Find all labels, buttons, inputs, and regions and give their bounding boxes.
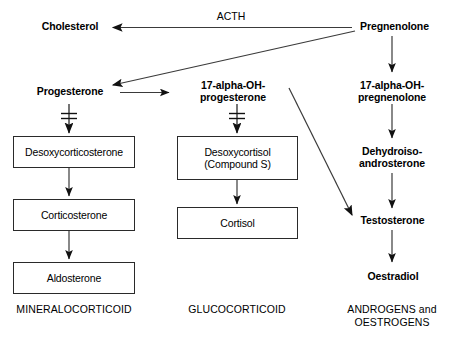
node-dehydroisoandrosterone: Dehydroiso- androsterone (337, 146, 447, 169)
node-progesterone: Progesterone (24, 86, 116, 98)
category-label-glucocorticoid: GLUCOCORTICOID (172, 303, 302, 316)
steroidogenesis-diagram: ACTH Cholesterol Pregnenolone Progestero… (0, 0, 463, 347)
node-box-cortisol: Cortisol (177, 207, 298, 239)
edge-label-acth: ACTH (201, 10, 261, 22)
node-box-desoxycorticosterone: Desoxycorticosterone (13, 136, 135, 168)
node-box-desoxycortisol: Desoxycortisol (Compound S) (177, 136, 298, 180)
node-oestradiol: Oestradiol (348, 271, 438, 283)
category-label-androgens-oestrogens: ANDROGENS and OESTROGENS (331, 303, 453, 328)
node-testosterone: Testosterone (345, 215, 440, 227)
edge-pregnenolone-to-progesterone (113, 31, 355, 85)
node-17-alpha-oh-pregnenolone: 17-alpha-OH- pregnenolone (337, 80, 447, 103)
node-box-aldosterone: Aldosterone (13, 262, 135, 294)
node-box-corticosterone: Corticosterone (13, 199, 135, 231)
node-17-alpha-oh-progesterone: 17-alpha-OH- progesterone (178, 80, 288, 103)
node-cholesterol: Cholesterol (25, 21, 115, 33)
node-pregnenolone: Pregnenolone (347, 21, 442, 33)
category-label-mineralocorticoid: MINERALOCORTICOID (4, 303, 144, 316)
